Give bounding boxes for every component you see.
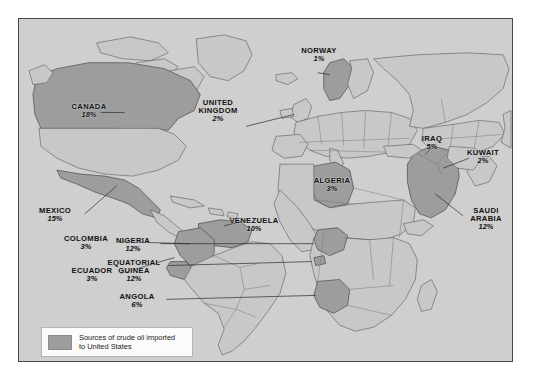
map-label-united-kingdom: UNITED KINGDOM 2%	[189, 99, 247, 123]
label-percent-iraq: 5%	[413, 143, 451, 151]
map-label-nigeria: NIGERIA 12%	[105, 237, 161, 253]
map-label-algeria: ALGERIA 3%	[305, 177, 359, 193]
label-name-saudi-arabia: SAUDI ARABIA	[463, 207, 509, 223]
map-label-venezuela: VENEZUELA 10%	[223, 217, 285, 233]
label-percent-norway: 1%	[291, 55, 347, 63]
label-percent-united-kingdom: 2%	[189, 115, 247, 123]
map-label-kuwait: KUWAIT 2%	[459, 149, 507, 165]
label-percent-kuwait: 2%	[459, 157, 507, 165]
label-percent-mexico: 15%	[27, 215, 83, 223]
legend-label: Sources of crude oil imported to United …	[79, 333, 175, 352]
label-percent-saudi-arabia: 12%	[463, 223, 509, 231]
label-percent-nigeria: 12%	[105, 245, 161, 253]
label-percent-equatorial-guinea: 12%	[99, 275, 169, 283]
label-percent-venezuela: 10%	[223, 225, 285, 233]
label-name-equatorial-guinea: EQUATORIAL GUINEA	[99, 259, 169, 275]
map-label-saudi-arabia: SAUDI ARABIA 12%	[463, 207, 509, 231]
map-legend: Sources of crude oil imported to United …	[41, 327, 193, 357]
ireland	[280, 108, 294, 118]
map-label-mexico: MEXICO 15%	[27, 207, 83, 223]
map-label-canada: CANADA 18%	[63, 103, 115, 119]
label-percent-angola: 6%	[109, 301, 165, 309]
label-percent-algeria: 3%	[305, 185, 359, 193]
map-label-iraq: IRAQ 5%	[413, 135, 451, 151]
map-label-equatorial-guinea: EQUATORIAL GUINEA 12%	[99, 259, 169, 283]
label-percent-canada: 18%	[63, 111, 115, 119]
map-graphic: .land{fill:#c8c8c8;stroke:#5a5a5a;stroke…	[19, 19, 512, 361]
map-label-angola: ANGOLA 6%	[109, 293, 165, 309]
map-label-norway: NORWAY 1%	[291, 47, 347, 63]
world-map-figure: .land{fill:#c8c8c8;stroke:#5a5a5a;stroke…	[18, 18, 513, 362]
label-name-united-kingdom: UNITED KINGDOM	[189, 99, 247, 115]
legend-swatch-highlight	[48, 335, 72, 350]
